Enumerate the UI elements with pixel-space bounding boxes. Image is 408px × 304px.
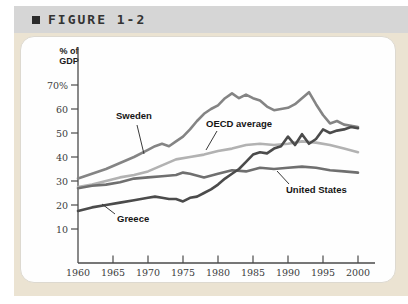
x-tick-label: 1980 — [202, 267, 234, 278]
oecd-average-series-label: OECD average — [206, 118, 272, 129]
y-tick-label: 70% — [38, 80, 68, 91]
figure-header-band: FIGURE 1-2 — [14, 6, 408, 34]
united-states-series-label: United States — [286, 184, 347, 195]
y-tick-label: 10 — [38, 224, 68, 235]
y-tick-label: 30 — [38, 176, 68, 187]
figure-bullet-icon — [32, 16, 40, 24]
y-axis-title-line1: % of — [56, 46, 82, 56]
x-tick-label: 1985 — [237, 267, 269, 278]
y-tick-label: 20 — [38, 200, 68, 211]
x-tick-label: 1975 — [167, 267, 199, 278]
greece-series-label: Greece — [117, 213, 149, 224]
y-axis-title-line2: GDP — [56, 56, 82, 66]
y-tick-label: 50 — [38, 128, 68, 139]
y-axis-title: % of GDP — [56, 46, 82, 66]
y-tick-label: 60 — [38, 104, 68, 115]
x-tick-label: 1960 — [62, 267, 94, 278]
y-tick-label: 40 — [38, 152, 68, 163]
chart-card — [20, 36, 396, 283]
x-tick-label: 2000 — [342, 267, 374, 278]
x-tick-label: 1995 — [307, 267, 339, 278]
sweden-series-label: Sweden — [116, 110, 152, 121]
x-tick-label: 1990 — [272, 267, 304, 278]
x-tick-label: 1970 — [132, 267, 164, 278]
x-tick-label: 1965 — [97, 267, 129, 278]
figure-title: FIGURE 1-2 — [48, 12, 146, 27]
